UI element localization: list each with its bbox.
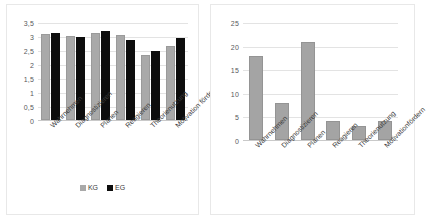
y-tick-label: 1 xyxy=(30,89,34,96)
bar-eg[interactable] xyxy=(76,37,85,120)
bar-group xyxy=(113,23,138,120)
y-tick-label: 20 xyxy=(231,43,239,50)
x-axis-labels-left: Wahrnehmen Diagnostizieren Planen Reagie… xyxy=(38,122,188,132)
y-tick-label: 2,5 xyxy=(24,47,34,54)
legend-swatch-kg-icon xyxy=(80,185,86,191)
chart-panel-left: 3,5 3 2,5 2 1,5 1 0,5 0 xyxy=(6,4,199,215)
legend-label-kg: KG xyxy=(88,184,98,191)
bar-eg[interactable] xyxy=(51,33,60,120)
plot-area-right: 25 20 15 10 5 0 xyxy=(243,23,398,141)
legend-item-kg[interactable]: KG xyxy=(80,184,98,191)
bar-eg[interactable] xyxy=(151,51,160,120)
y-tick-label: 3 xyxy=(30,33,34,40)
bar-group xyxy=(320,23,346,140)
y-tick-label: 10 xyxy=(231,90,239,97)
bar-eg[interactable] xyxy=(176,38,185,120)
bar-group xyxy=(346,23,372,140)
y-tick-label: 0 xyxy=(30,118,34,125)
bar-group xyxy=(38,23,63,120)
y-tick-label: 0 xyxy=(235,138,239,145)
bar-groups-right xyxy=(243,23,398,140)
y-tick-label: 5 xyxy=(235,114,239,121)
y-tick-label: 25 xyxy=(231,20,239,27)
y-tick-label: 3,5 xyxy=(24,20,34,27)
bar-groups-left xyxy=(38,23,188,120)
bar-eg[interactable] xyxy=(126,40,135,120)
chart-panel-right: 25 20 15 10 5 0 xyxy=(210,4,415,215)
bar-kg[interactable] xyxy=(116,35,125,120)
legend-swatch-eg-icon xyxy=(107,185,113,191)
y-tick-label: 15 xyxy=(231,67,239,74)
bar-group xyxy=(243,23,269,140)
y-tick-label: 2 xyxy=(30,61,34,68)
x-axis-labels-right: Wahrnehmen Diagnostizieren Planen Reagie… xyxy=(243,142,398,152)
legend-item-eg[interactable]: EG xyxy=(107,184,125,191)
legend-label-eg: EG xyxy=(115,184,125,191)
chart-legend: KG EG xyxy=(7,184,198,191)
bar-count[interactable] xyxy=(249,56,263,140)
bar-eg[interactable] xyxy=(101,31,110,120)
bar-kg[interactable] xyxy=(41,34,50,120)
y-tick-label: 1,5 xyxy=(24,75,34,82)
y-tick-label: 0,5 xyxy=(24,103,34,110)
